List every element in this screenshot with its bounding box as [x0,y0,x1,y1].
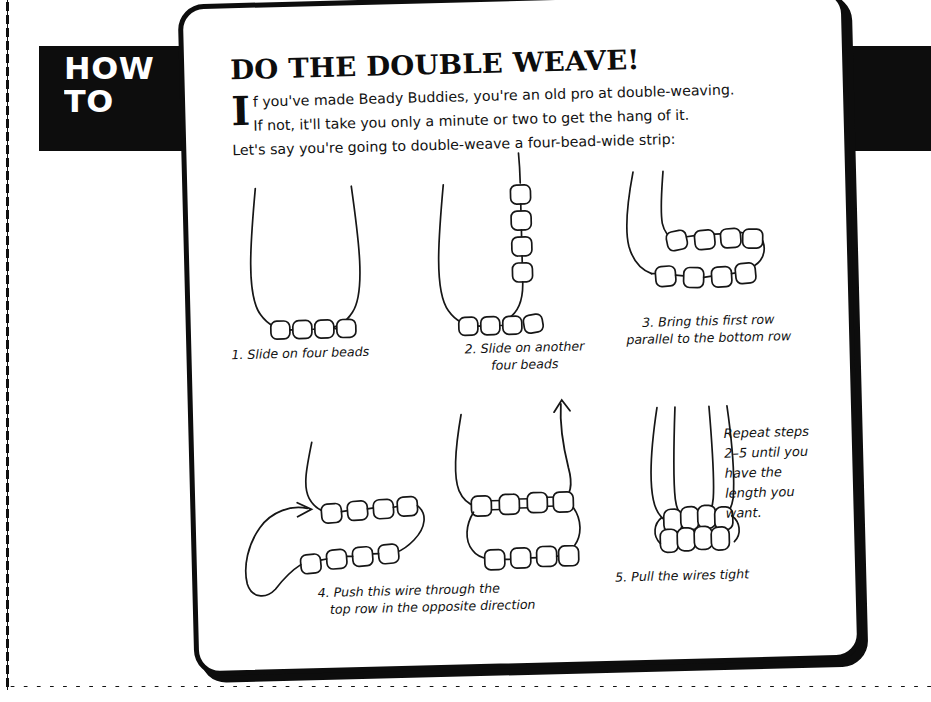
step-4-diagram-left [239,421,433,601]
step-5-caption-line1: 5. Pull the wires tight [615,563,825,585]
page-frame-dotted-left [6,0,9,690]
step-1-diagram [239,180,373,343]
how-to-tab-label: HOW TO [64,52,191,118]
repeat-note-line5: want. [725,501,855,524]
repeat-note: Repeat steps 2–5 until you have the leng… [723,421,855,524]
page-frame-dotted-bottom [6,685,931,688]
how-to-tab-line2: TO [64,85,191,118]
step-1-caption-line1: 1. Slide on four beads [231,342,421,364]
how-to-tab-line1: HOW [64,52,191,85]
step-2-caption: 2. Slide on another four beads [449,337,600,375]
step-1-drawing [239,180,373,343]
step-4-diagram-right [425,397,590,581]
step-3-drawing [615,167,768,311]
step-4-drawing-left [239,421,433,601]
step-2-diagram [426,148,571,341]
step-4-drawing-right [425,397,590,581]
step-1-caption: 1. Slide on four beads [231,342,421,364]
page-title: DO THE DOUBLE WEAVE! [230,44,640,85]
step-3-caption: 3. Bring this first row parallel to the … [601,310,817,349]
step-2-drawing [426,148,571,341]
step-4-caption: 4. Push this wire through the top row in… [317,578,578,619]
drop-cap: I [231,93,251,129]
instruction-card-surface: DO THE DOUBLE WEAVE! I f you've made Bea… [178,0,863,676]
page-root: HOW TO DO THE DOUBLE WEAVE! I f you've m… [0,0,931,702]
step-3-diagram [615,167,768,311]
step-5-caption: 5. Pull the wires tight [615,563,825,585]
instruction-card: DO THE DOUBLE WEAVE! I f you've made Bea… [178,0,863,676]
